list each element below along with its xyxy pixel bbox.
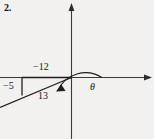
problem-number: 2. xyxy=(4,3,11,13)
adjacent-leg-label: −12 xyxy=(33,62,49,72)
angle-arc-arrowhead xyxy=(56,84,66,91)
y-axis-arrowhead xyxy=(69,3,75,11)
opposite-leg-label: −5 xyxy=(3,81,14,91)
theta-angle-label: θ xyxy=(90,82,95,92)
angle-arc xyxy=(58,73,102,91)
coordinate-plane-diagram xyxy=(0,0,154,139)
x-axis-arrowhead xyxy=(144,75,152,81)
math-figure: 2. −12 −5 13 θ xyxy=(0,0,154,139)
hypotenuse-label: 13 xyxy=(38,91,48,101)
